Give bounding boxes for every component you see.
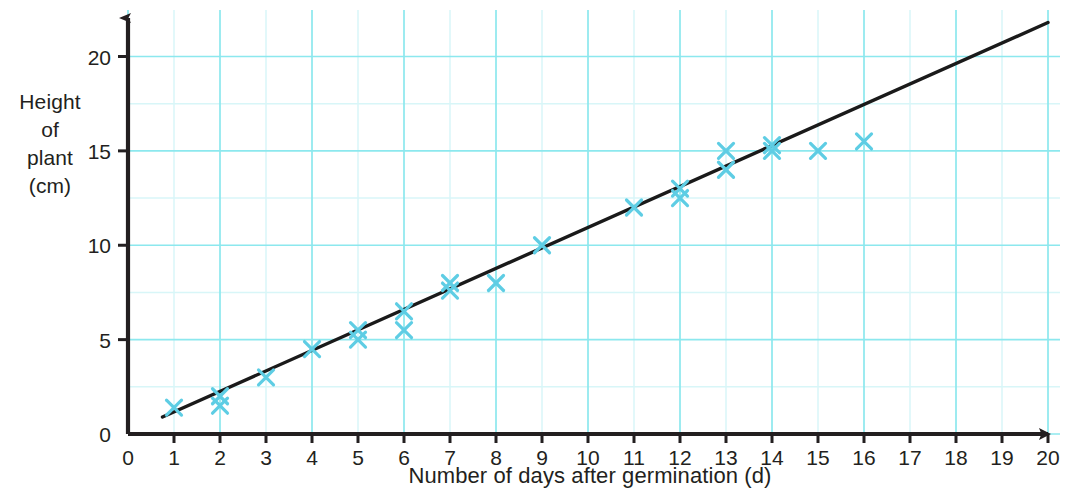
x-tick-label: 4 <box>306 446 318 469</box>
x-tick-label: 0 <box>122 446 134 469</box>
x-tick-label: 11 <box>623 446 645 469</box>
x-tick-label: 20 <box>1036 446 1059 469</box>
x-tick-label: 8 <box>490 446 502 469</box>
x-tick-label: 3 <box>260 446 272 469</box>
x-tick-label: 10 <box>576 446 599 469</box>
x-tick-label: 15 <box>806 446 829 469</box>
y-tick-label: 5 <box>99 329 111 352</box>
x-tick-label: 6 <box>398 446 410 469</box>
axis-tick-labels: 0123456789101112131415161718192005101520 <box>88 46 1060 470</box>
data-points <box>167 134 872 415</box>
y-tick-label: 15 <box>88 140 111 163</box>
x-tick-label: 2 <box>214 446 226 469</box>
x-tick-label: 7 <box>444 446 456 469</box>
x-tick-label: 19 <box>990 446 1013 469</box>
x-tick-label: 18 <box>944 446 967 469</box>
x-tick-label: 14 <box>760 446 784 469</box>
scatter-plot-figure: Height of plant (cm) Number of days afte… <box>0 0 1069 497</box>
x-tick-label: 12 <box>668 446 691 469</box>
x-tick-label: 17 <box>898 446 921 469</box>
trend-line <box>163 23 1049 417</box>
y-tick-label: 20 <box>88 46 111 69</box>
chart-canvas: 0123456789101112131415161718192005101520 <box>0 0 1069 497</box>
trend-line-segment <box>163 23 1049 417</box>
x-tick-label: 13 <box>714 446 737 469</box>
x-tick-label: 5 <box>352 446 364 469</box>
y-tick-label: 10 <box>88 234 111 257</box>
x-tick-label: 16 <box>852 446 875 469</box>
x-tick-label: 1 <box>168 446 180 469</box>
y-tick-label: 0 <box>99 423 111 446</box>
x-tick-label: 9 <box>536 446 548 469</box>
